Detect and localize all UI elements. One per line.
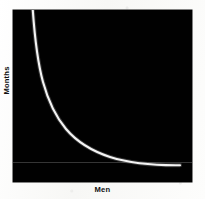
- x-axis-label: Men: [0, 185, 205, 194]
- plot-svg: [13, 10, 192, 182]
- chart-figure: Months Men: [0, 0, 205, 199]
- decay-curve-glow: [33, 10, 181, 165]
- y-axis-label: Months: [2, 53, 11, 109]
- plot-area: [13, 10, 192, 182]
- decay-curve: [33, 10, 181, 165]
